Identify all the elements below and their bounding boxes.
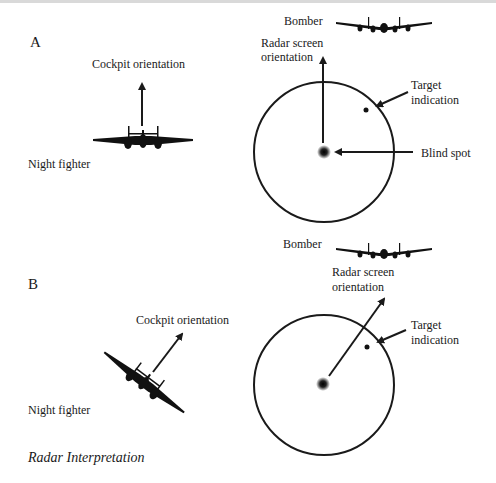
night-fighter-label-b: Night fighter [28,403,90,417]
cockpit-orientation-label-a: Cockpit orientation [92,57,185,71]
target-indication-label-b-line2: indication [411,333,459,347]
blind-spot-label: Blind spot [421,146,471,160]
night-fighter-icon-b [99,341,193,420]
target-indication-label-a-line2: indication [411,93,459,107]
target-dot-a [364,108,369,113]
radar-screen-label-b-line2: orientation [332,280,384,294]
panel-letter-a: A [30,34,41,51]
bomber-label-b: Bomber [283,237,322,251]
target-arrow-b [378,330,406,342]
figure-caption: Radar Interpretation [28,450,145,466]
radar-screen-label-b-line1: Radar screen [332,265,394,279]
panel-letter-b: B [28,276,38,293]
radar-screen-label-a-line1: Radar screen [261,36,323,50]
bomber-icon-b [336,243,432,259]
night-fighter-icon-a [93,126,193,149]
target-indication-label-b-line1: Target [411,318,441,332]
cockpit-orientation-arrow-b [153,334,182,372]
bomber-icon-a [336,17,432,33]
radar-screen-label-a-line2: orientation [261,50,313,64]
blind-spot-a [317,145,331,159]
blind-spot-b [316,377,330,391]
cockpit-orientation-label-b: Cockpit orientation [136,313,229,327]
night-fighter-label-a: Night fighter [28,157,90,171]
bomber-label-a: Bomber [284,14,323,28]
target-arrow-a [377,92,408,106]
target-dot-b [365,345,370,350]
target-indication-label-a-line1: Target [411,78,441,92]
